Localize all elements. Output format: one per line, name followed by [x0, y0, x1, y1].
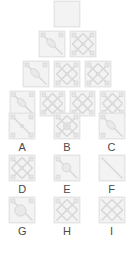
answer-option-c[interactable]: C	[89, 112, 134, 154]
answer-option-f[interactable]: F	[89, 154, 134, 196]
answer-option-a[interactable]: A	[0, 112, 45, 154]
answer-option-label-h: H	[63, 225, 71, 238]
pyramid-tile-p3-1	[22, 60, 50, 88]
answer-option-label-b: B	[63, 141, 71, 154]
answer-option-tile-b[interactable]	[53, 112, 81, 140]
answer-options-grid: ABCDEFGHI	[0, 112, 134, 238]
answer-option-tile-g[interactable]	[8, 196, 36, 224]
answer-option-i[interactable]: I	[89, 196, 134, 238]
pyramid-row-1	[0, 0, 134, 28]
answer-option-tile-a[interactable]	[8, 112, 36, 140]
answer-option-label-e: E	[63, 183, 71, 196]
answer-option-label-c: C	[108, 141, 116, 154]
pyramid-row-3	[0, 60, 134, 88]
answer-option-g[interactable]: G	[0, 196, 45, 238]
pyramid-stimulus	[0, 0, 134, 119]
answer-option-tile-f[interactable]	[98, 154, 126, 182]
answer-option-tile-i[interactable]	[98, 196, 126, 224]
answer-option-tile-h[interactable]	[53, 196, 81, 224]
answer-option-label-a: A	[19, 141, 27, 154]
pyramid-tile-p1-1	[53, 0, 81, 28]
pyramid-tile-p2-2	[69, 30, 97, 58]
answer-option-d[interactable]: D	[0, 154, 45, 196]
matrix-reasoning-puzzle: ABCDEFGHI	[0, 0, 134, 258]
answer-option-tile-e[interactable]	[53, 154, 81, 182]
answer-option-tile-d[interactable]	[8, 154, 36, 182]
pyramid-tile-p2-1	[38, 30, 66, 58]
answer-option-h[interactable]: H	[45, 196, 90, 238]
answer-option-label-f: F	[108, 183, 115, 196]
answer-option-label-i: I	[110, 225, 113, 238]
answer-option-label-d: D	[18, 183, 26, 196]
pyramid-tile-p3-2	[53, 60, 81, 88]
answer-option-b[interactable]: B	[45, 112, 90, 154]
pyramid-tile-p3-3	[84, 60, 112, 88]
answer-option-e[interactable]: E	[45, 154, 90, 196]
answer-option-label-g: G	[18, 225, 27, 238]
pyramid-row-2	[0, 30, 134, 58]
answer-option-tile-c[interactable]	[98, 112, 126, 140]
